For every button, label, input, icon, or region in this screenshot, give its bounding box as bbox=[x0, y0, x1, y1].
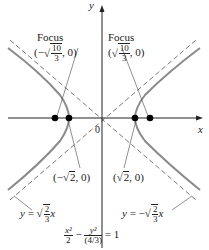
hyperbola-equation: x²2 − y²(4/3) = 1 bbox=[64, 226, 119, 245]
right-focus-point bbox=[147, 115, 154, 122]
right-focus-label: Focus bbox=[108, 32, 134, 43]
asymptote-negative-label: y = −√23x bbox=[122, 204, 163, 224]
y-axis-label: y bbox=[89, 0, 94, 11]
leader-right-asymptote bbox=[172, 196, 192, 210]
hyperbola-right-branch bbox=[135, 48, 200, 190]
coord-suffix: , 0) bbox=[130, 46, 145, 58]
equals: = bbox=[127, 207, 139, 219]
origin-label: 0 bbox=[95, 124, 100, 135]
coord-suffix: , 0) bbox=[75, 171, 90, 183]
equals: = bbox=[25, 207, 37, 219]
left-vertex-label: (−√2, 0) bbox=[53, 171, 90, 183]
variable: x bbox=[158, 207, 163, 219]
focus-title: Focus bbox=[37, 31, 63, 43]
term-y: y²(4/3) bbox=[84, 226, 102, 245]
denominator: 3 bbox=[119, 54, 130, 63]
coord-suffix: , 0) bbox=[129, 171, 144, 183]
leader-right-vertex bbox=[124, 120, 136, 168]
focus-title: Focus bbox=[108, 31, 134, 43]
equals-one: = 1 bbox=[105, 228, 119, 240]
fraction: 103 bbox=[118, 43, 130, 63]
x-axis-label: x bbox=[198, 124, 203, 135]
variable: x bbox=[50, 207, 55, 219]
right-vertex-point bbox=[132, 115, 139, 122]
leader-left-vertex bbox=[68, 120, 80, 168]
right-focus-coord: (√103, 0) bbox=[108, 43, 144, 63]
coord-prefix: (− bbox=[34, 46, 44, 58]
asymptote-positive-label: y = √23x bbox=[20, 204, 55, 224]
term-x: x²2 bbox=[64, 226, 73, 245]
fraction: 103 bbox=[50, 43, 62, 63]
right-vertex-label: (√2, 0) bbox=[113, 171, 144, 183]
hyperbola-left-branch bbox=[8, 48, 69, 190]
coord-prefix: (− bbox=[53, 171, 63, 183]
left-focus-coord: (−√103, 0) bbox=[34, 43, 77, 63]
x-axis-arrow-icon bbox=[196, 116, 203, 121]
denominator: 2 bbox=[64, 236, 73, 245]
denominator: 3 bbox=[51, 54, 62, 63]
denominator: (4/3) bbox=[84, 236, 102, 245]
coord-suffix: , 0) bbox=[62, 46, 77, 58]
left-focus-label: Focus bbox=[37, 32, 63, 43]
left-vertex-point bbox=[66, 115, 73, 122]
minus-sign: − bbox=[75, 228, 81, 240]
y-axis-arrow-icon bbox=[100, 5, 105, 12]
left-focus-point bbox=[52, 115, 59, 122]
